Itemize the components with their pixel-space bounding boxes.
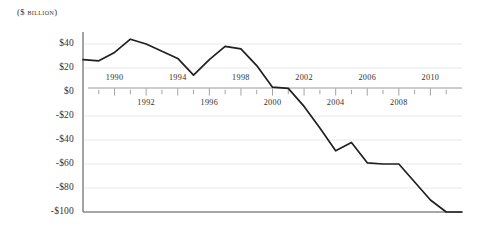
- y-axis-tick-label: -$20: [14, 110, 74, 120]
- x-axis-tick-label: 2006: [347, 73, 387, 82]
- x-axis-tick-label: 1994: [158, 73, 198, 82]
- y-axis-tick-label: -$80: [14, 182, 74, 192]
- gridlines: [83, 44, 462, 212]
- y-axis-tick-label: $40: [14, 38, 74, 48]
- x-axis-tick-label: 1990: [95, 73, 135, 82]
- y-axis-tick-label: $20: [14, 62, 74, 72]
- x-axis-tick-label: 1992: [126, 98, 166, 107]
- zero-axis-ticks: [99, 88, 446, 95]
- x-axis-tick-label: 2004: [316, 98, 356, 107]
- x-axis-tick-label: 1996: [189, 98, 229, 107]
- x-axis-tick-label: 2000: [253, 98, 293, 107]
- x-axis-tick-label: 1998: [221, 73, 261, 82]
- x-axis-tick-label: 2002: [284, 73, 324, 82]
- x-axis-tick-label: 2008: [379, 98, 419, 107]
- y-axis-tick-label: -$100: [14, 206, 74, 216]
- y-axis-tick-label: -$60: [14, 158, 74, 168]
- data-series-line: [83, 39, 462, 212]
- y-axis-tick-label: -$40: [14, 134, 74, 144]
- line-chart: ($ billion) $40$20$0-$20-$40-$60-$80-$10…: [0, 0, 481, 225]
- x-axis-tick-label: 2010: [410, 73, 450, 82]
- y-axis-tick-label: $0: [14, 86, 74, 96]
